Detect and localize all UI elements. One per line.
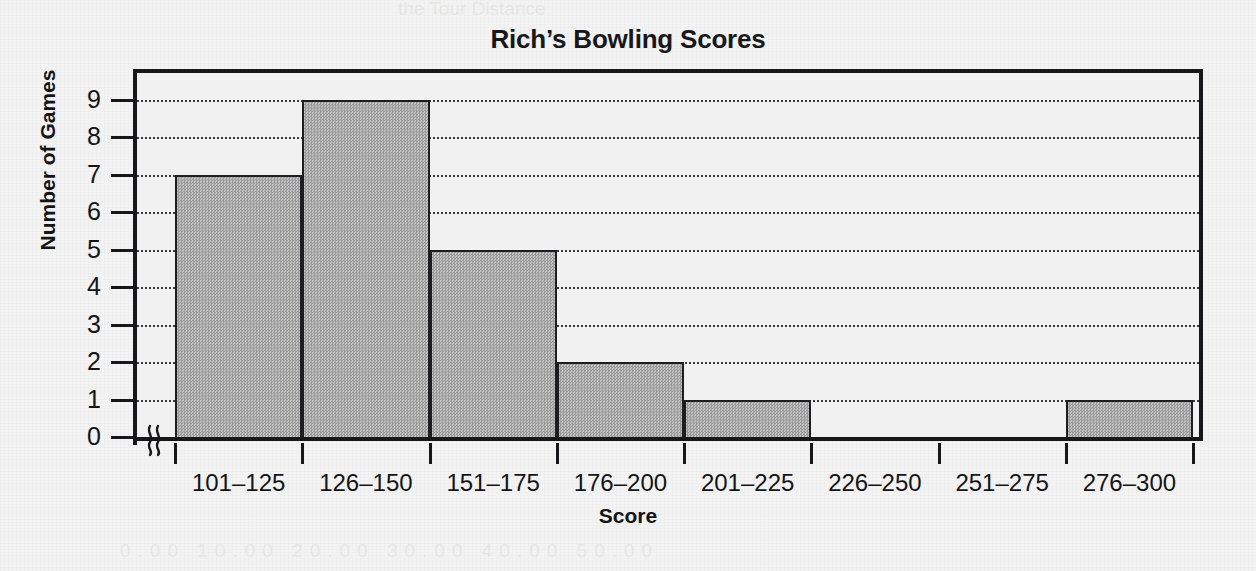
x-tick-label-251-275: 251–275 [939, 469, 1066, 497]
y-tick-label-4: 4 [61, 274, 101, 299]
y-tick-7 [111, 174, 133, 177]
y-tick-label-9: 9 [61, 87, 101, 112]
x-tick-label-126-150: 126–150 [302, 469, 429, 497]
y-tick-label-0: 0 [61, 424, 101, 449]
x-tick-7 [1065, 443, 1068, 464]
bar-126-150[interactable] [302, 100, 429, 437]
y-tick-label-7: 7 [61, 162, 101, 187]
x-tick-label-201-225: 201–225 [684, 469, 811, 497]
x-tick-5 [810, 443, 813, 464]
chart-title: Rich’s Bowling Scores [0, 24, 1256, 55]
y-tick-9 [111, 99, 133, 102]
x-tick-4 [683, 443, 686, 464]
bar-176-200[interactable] [557, 362, 684, 437]
y-axis-line [133, 69, 137, 445]
x-tick-2 [429, 443, 432, 464]
x-tick-label-176-200: 176–200 [557, 469, 684, 497]
y-tick-label-2: 2 [61, 349, 101, 374]
y-tick-label-6: 6 [61, 199, 101, 224]
y-tick-2 [111, 361, 133, 364]
y-axis-title: Number of Games [36, 50, 60, 270]
x-tick-1 [301, 443, 304, 464]
bar-201-225[interactable] [684, 400, 811, 437]
plot-area [137, 73, 1199, 437]
plot-frame [133, 69, 1203, 441]
x-axis-title: Score [0, 504, 1256, 528]
y-tick-0 [111, 436, 133, 439]
x-tick-label-101-125: 101–125 [175, 469, 302, 497]
y-tick-label-3: 3 [61, 312, 101, 337]
y-tick-8 [111, 136, 133, 139]
y-tick-5 [111, 249, 133, 252]
x-tick-6 [938, 443, 941, 464]
y-tick-3 [111, 324, 133, 327]
bar-276-300[interactable] [1066, 400, 1193, 437]
y-tick-label-8: 8 [61, 124, 101, 149]
y-tick-label-5: 5 [61, 237, 101, 262]
x-tick-label-276-300: 276–300 [1066, 469, 1193, 497]
x-tick-8 [1192, 443, 1195, 464]
y-tick-6 [111, 211, 133, 214]
x-tick-3 [556, 443, 559, 464]
y-tick-4 [111, 286, 133, 289]
y-tick-1 [111, 399, 133, 402]
y-tick-label-1: 1 [61, 387, 101, 412]
bar-101-125[interactable] [175, 175, 302, 437]
axis-break-icon [141, 423, 167, 457]
x-tick-label-151-175: 151–175 [430, 469, 557, 497]
x-tick-label-226-250: 226–250 [811, 469, 938, 497]
bar-series [137, 73, 1199, 437]
x-tick-0 [174, 443, 177, 464]
bar-151-175[interactable] [430, 250, 557, 437]
